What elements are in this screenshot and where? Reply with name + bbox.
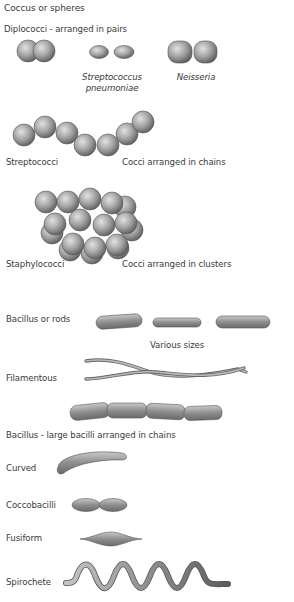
strep-pneumoniae-line1: Streptococcus (82, 72, 142, 83)
bacillus-rods-icon (96, 313, 270, 329)
curved-bacterium-icon (57, 452, 126, 474)
curved-label: Curved (6, 463, 36, 473)
spirochete-label: Spirochete (6, 577, 51, 587)
streptococci-label: Streptococci (6, 157, 58, 167)
cocci-clusters-label: Cocci arranged in clusters (122, 259, 231, 269)
strep-pneumoniae-label: Streptococcus pneumoniae (82, 72, 142, 94)
filamentous-label: Filamentous (6, 373, 57, 383)
bacillus-heading: Bacillus or rods (6, 314, 70, 324)
staphylococci-label: Staphylococci (6, 259, 64, 269)
diplococci-label: Diplococci - arranged in pairs (4, 24, 127, 34)
coccus-heading: Coccus or spheres (4, 3, 85, 13)
various-sizes-label: Various sizes (150, 340, 204, 350)
coccobacilli-label: Coccobacilli (6, 500, 56, 510)
coccobacilli-icon (72, 499, 127, 512)
bacillus-chain-icon (69, 402, 222, 421)
spirochete-icon (66, 564, 228, 588)
streptococcus-pneumoniae-icon (90, 46, 135, 59)
morphology-illustrations (0, 0, 294, 602)
filamentous-icon (86, 360, 246, 379)
neisseria-icon (168, 41, 217, 63)
diplococci-icon (17, 40, 55, 62)
strep-pneumoniae-line2: pneumoniae (82, 83, 142, 94)
fusiform-icon (80, 532, 142, 546)
neisseria-label: Neisseria (176, 72, 216, 83)
streptococci-chain-icon (13, 111, 154, 156)
staphylococci-cluster-icon (35, 188, 143, 264)
fusiform-label: Fusiform (6, 533, 42, 543)
cocci-chains-label: Cocci arranged in chains (122, 157, 226, 167)
bacillus-chains-label: Bacillus - large bacilli arranged in cha… (6, 430, 176, 440)
